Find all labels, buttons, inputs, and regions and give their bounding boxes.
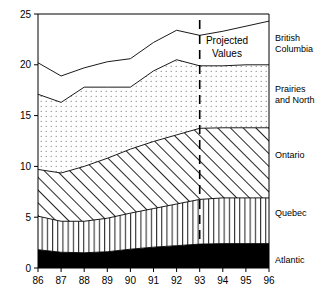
x-tick-label: 90 xyxy=(125,275,137,286)
series-label-atlantic: Atlantic xyxy=(275,255,305,265)
y-tick-label: 20 xyxy=(20,59,32,70)
series-labels: British Columbia Prairies and North Onta… xyxy=(275,33,315,265)
x-axis-ticks: 8687888990919293949596 xyxy=(32,268,275,286)
x-tick-label: 87 xyxy=(56,275,68,286)
projected-values-line2: Values xyxy=(212,48,242,59)
x-tick-label: 96 xyxy=(263,275,275,286)
y-tick-label: 15 xyxy=(20,110,32,121)
series-label-prairies-and-north-line1: Prairies xyxy=(275,84,306,94)
y-axis-ticks: 0510152025 xyxy=(20,9,38,274)
x-tick-label: 88 xyxy=(79,275,91,286)
x-tick-label: 93 xyxy=(194,275,206,286)
series-label-british-columbia-line1: British xyxy=(275,33,300,43)
y-tick-label: 25 xyxy=(20,9,32,20)
series-label-british-columbia-line2: Columbia xyxy=(275,44,313,54)
x-tick-label: 89 xyxy=(102,275,114,286)
y-tick-label: 10 xyxy=(20,161,32,172)
series-label-ontario: Ontario xyxy=(275,150,305,160)
x-tick-label: 91 xyxy=(148,275,160,286)
stacked-area-chart: 0510152025 8687888990919293949596 Projec… xyxy=(0,0,319,301)
series-label-prairies-and-north-line2: and North xyxy=(275,95,315,105)
x-tick-label: 94 xyxy=(217,275,229,286)
x-tick-label: 86 xyxy=(32,275,44,286)
chart-canvas: 0510152025 8687888990919293949596 Projec… xyxy=(0,0,319,301)
x-tick-label: 92 xyxy=(171,275,183,286)
y-tick-label: 0 xyxy=(25,263,31,274)
series-label-quebec: Quebec xyxy=(275,208,307,218)
x-tick-label: 95 xyxy=(240,275,252,286)
projected-values-line1: Projected xyxy=(206,35,248,46)
y-tick-label: 5 xyxy=(25,212,31,223)
